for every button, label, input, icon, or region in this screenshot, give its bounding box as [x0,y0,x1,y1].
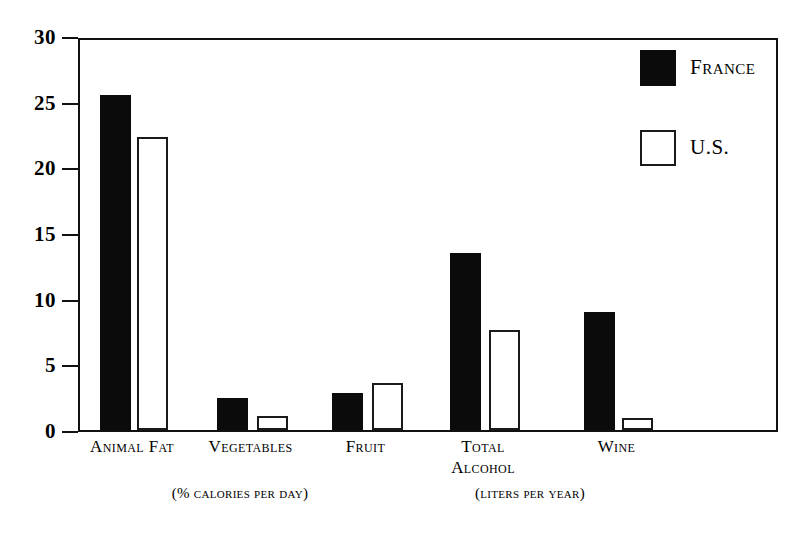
y-axis-tick-label: 20 [34,156,56,181]
bar-us-animal-fat [137,137,168,430]
legend-label: France [690,53,756,81]
legend-item-us: U.S. [640,130,770,166]
category-label-wine: Wine [537,436,697,457]
legend-label: U.S. [690,133,729,161]
caption-liters-per-year: (liters per year) [400,484,660,503]
legend-item-france: France [640,50,770,86]
bar-chart: 302520151050 Animal FatVegetablesFruitTo… [0,0,802,537]
bar-us-fruit [372,383,403,430]
y-axis-tick-mark [62,168,78,170]
caption-percent-calories-per-day: (% calories per day) [110,484,370,503]
bar-france-wine [584,312,615,430]
bar-us-total-alcohol [489,330,520,430]
legend-swatch-icon [640,130,676,166]
legend-swatch-icon [640,50,676,86]
y-axis-tick-label: 10 [34,288,56,313]
y-axis-tick-label: 30 [34,25,56,50]
bar-us-wine [622,418,653,430]
y-axis-tick-label: 25 [34,91,56,116]
y-axis-tick-mark [62,234,78,236]
y-axis-tick-mark [62,103,78,105]
bar-france-total-alcohol [450,253,481,430]
y-axis-tick-label: 5 [45,353,56,378]
y-axis-tick-label: 15 [34,222,56,247]
y-axis-tick-mark [62,300,78,302]
bar-us-vegetables [257,416,288,430]
legend: FranceU.S. [640,50,770,210]
y-axis-tick-mark [62,37,78,39]
bar-france-fruit [332,393,363,430]
bar-france-vegetables [217,398,248,430]
bar-france-animal-fat [100,95,131,430]
y-axis-tick-mark [62,431,78,433]
y-axis-tick-mark [62,365,78,367]
